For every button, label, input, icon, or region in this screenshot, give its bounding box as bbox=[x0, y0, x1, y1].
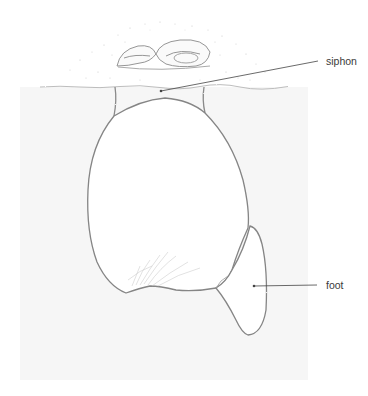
bivalve-illustration bbox=[0, 0, 368, 396]
foot-leader-dot bbox=[253, 285, 256, 288]
foot-label: foot bbox=[326, 280, 344, 291]
siphon-leader-dot bbox=[160, 90, 163, 93]
siphon-openings-top-view bbox=[117, 40, 210, 70]
siphon-label: siphon bbox=[326, 56, 357, 67]
